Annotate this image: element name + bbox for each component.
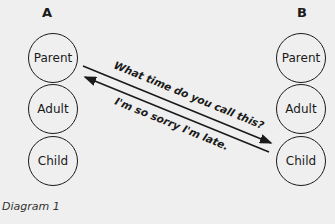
- diagram-caption: Diagram 1: [2, 200, 60, 213]
- transaction-arrows: What time do you call this? I'm so sorry…: [0, 0, 335, 224]
